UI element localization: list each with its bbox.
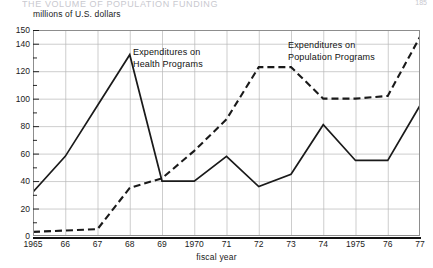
- x-tick-label: 1965: [24, 239, 43, 249]
- x-tick-label: 77: [415, 239, 424, 249]
- x-axis-title: fiscal year: [0, 252, 433, 262]
- x-tick-label: 68: [125, 239, 134, 249]
- annotation-population-programs: Expenditures on Population Programs: [288, 40, 375, 63]
- x-tick-label: 76: [383, 239, 392, 249]
- x-tick-label: 69: [157, 239, 166, 249]
- annotation-health-programs: Expenditures on Health Programs: [133, 47, 203, 70]
- y-axis: 020406080100120140150: [0, 0, 30, 268]
- data-series: [33, 37, 420, 232]
- y-tick-label: 100: [16, 95, 30, 104]
- series-line-health: [33, 55, 420, 192]
- y-tick-label: 120: [16, 67, 30, 76]
- annotation-population-line-1: Expenditures on: [288, 40, 375, 52]
- x-tick-label: 66: [61, 239, 70, 249]
- y-axis-title: millions of U.S. dollars: [33, 9, 121, 19]
- x-tick-label: 74: [319, 239, 328, 249]
- x-tick-label: 72: [254, 239, 263, 249]
- y-tick-label: 20: [21, 205, 30, 214]
- series-line-population: [33, 37, 420, 232]
- y-tick-label: 40: [21, 177, 30, 186]
- annotation-health-line-1: Expenditures on: [133, 47, 203, 59]
- x-tick-label: 1970: [185, 239, 204, 249]
- annotation-health-line-2: Health Programs: [133, 59, 203, 71]
- y-tick-label: 150: [16, 26, 30, 35]
- x-tick-label: 1975: [346, 239, 365, 249]
- x-axis: 19656667686919707172737419757677: [0, 239, 433, 253]
- chart-figure: THE VOLUME OF POPULATION FUNDING 185 mil…: [0, 0, 433, 268]
- x-tick-label: 67: [93, 239, 102, 249]
- y-tick-label: 60: [21, 150, 30, 159]
- y-tick-label: 140: [16, 40, 30, 49]
- x-tick-label: 73: [286, 239, 295, 249]
- page-running-head: THE VOLUME OF POPULATION FUNDING: [22, 0, 422, 8]
- y-tick-label: 80: [21, 122, 30, 131]
- annotation-population-line-2: Population Programs: [288, 52, 375, 64]
- page-folio: 185: [415, 0, 427, 6]
- x-axis-baseline: [33, 237, 421, 239]
- x-tick-label: 71: [222, 239, 231, 249]
